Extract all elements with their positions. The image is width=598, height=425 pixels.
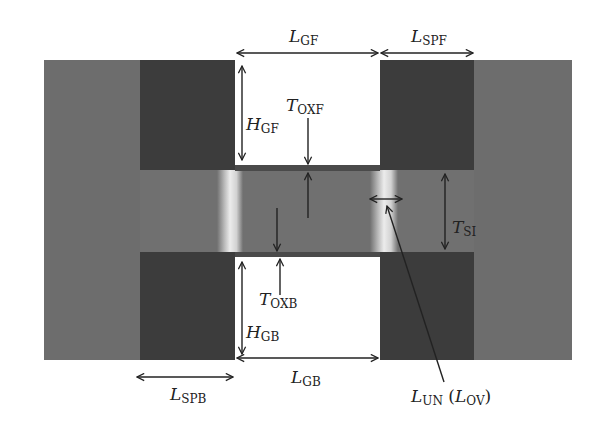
label-l-spb: LSPB [169,384,207,406]
silicon-channel [140,170,474,252]
back-gate [235,257,380,360]
dg-mosfet-diagram: LGF LSPF HGF TOXF TSI TOXB HGB LGB LSPB … [0,0,598,425]
front-right-spacer [380,60,474,170]
label-l-gf: LGF [288,26,318,48]
front-left-spacer [140,60,235,170]
right-junction-highlight [370,170,398,252]
back-right-spacer [380,252,474,360]
label-l-spf: LSPF [410,26,447,48]
label-l-un-l-ov: LUN (LOV) [410,386,491,408]
back-left-spacer [140,252,235,360]
left-junction-highlight [217,170,243,252]
label-l-gb: LGB [290,367,321,389]
front-oxide [235,165,380,171]
back-oxide [235,252,380,257]
